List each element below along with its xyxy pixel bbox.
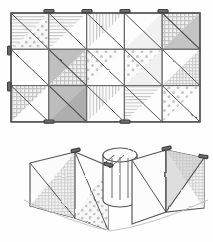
folded-panel-right <box>166 150 204 212</box>
quilt-cell-r0c1 <box>49 13 87 49</box>
quilt-cell-r0c0 <box>11 13 49 49</box>
quilt-cell-r1c4 <box>162 49 200 85</box>
quilt-sketch <box>0 0 213 242</box>
quilt-cell-r2c4 <box>162 86 200 122</box>
quilt-cell-r0c3 <box>124 13 162 49</box>
folded-panel-right-front <box>132 150 166 224</box>
quilt-cell-r1c2 <box>87 49 125 85</box>
quilt-cell-r1c0 <box>11 49 49 85</box>
quilt-cell-r1c3 <box>124 49 162 85</box>
quilt-cell-r2c1 <box>49 86 87 122</box>
quilt-cell-r0c2 <box>87 13 125 49</box>
folded-panel-left <box>30 152 75 218</box>
illustration-canvas <box>0 0 213 242</box>
quilt-cell-r2c3 <box>124 86 162 122</box>
quilt-cell-r1c1 <box>49 49 87 85</box>
quilt-cell-r0c4 <box>162 13 200 49</box>
quilt-cell-r2c0 <box>11 86 49 122</box>
quilt-cell-r2c2 <box>87 86 125 122</box>
flat-quilt-grid <box>11 13 200 122</box>
folded-quilt-view <box>24 148 208 231</box>
